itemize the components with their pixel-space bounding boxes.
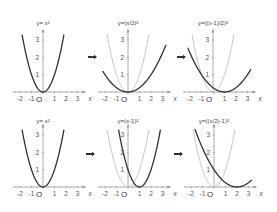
x-tick-label: -2 <box>17 190 23 197</box>
x-tick-label: 3 <box>246 95 250 102</box>
y-tick-label: 2 <box>35 149 39 156</box>
x-tick-label: -1 <box>29 95 35 102</box>
x-axis-label: x <box>173 190 178 197</box>
x-tick-label: 2 <box>149 95 153 102</box>
y-tick-label: 3 <box>35 131 39 138</box>
origin-label: O <box>206 95 212 104</box>
y-tick-label: 2 <box>205 54 209 61</box>
x-tick-label: -2 <box>102 190 108 197</box>
y-tick-label: 1 <box>120 166 124 173</box>
y-tick-label: 3 <box>35 36 39 43</box>
origin-label: O <box>36 190 42 199</box>
x-tick-label: 1 <box>53 95 57 102</box>
x-tick-label: 3 <box>161 95 165 102</box>
y-tick-label: 2 <box>35 54 39 61</box>
right-arrow-icon <box>177 55 186 59</box>
y-tick-label: 1 <box>206 166 210 173</box>
x-tick-label: 2 <box>234 95 238 102</box>
function-curve <box>195 129 252 187</box>
function-label: y= x² <box>36 118 49 124</box>
panel-1-1: -2-1123x123Oy=(x-1)² <box>98 118 177 199</box>
x-tick-label: 3 <box>161 190 165 197</box>
x-axis-label: x <box>173 95 178 102</box>
function-label: y=(x-1)² <box>118 118 139 124</box>
right-arrow-icon <box>88 55 97 59</box>
x-tick-label: -1 <box>199 95 205 102</box>
function-label: y=(x/2)² <box>118 20 139 26</box>
x-tick-label: -1 <box>114 190 120 197</box>
y-tick-label: 1 <box>205 71 209 78</box>
x-tick-label: 3 <box>76 190 80 197</box>
x-tick-label: 1 <box>138 95 142 102</box>
x-tick-label: -1 <box>29 190 35 197</box>
y-tick-label: 1 <box>35 166 39 173</box>
x-tick-label: -2 <box>17 95 23 102</box>
x-tick-label: 2 <box>64 95 68 102</box>
y-tick-label: 1 <box>120 71 124 78</box>
y-tick-label: 3 <box>120 131 124 138</box>
x-tick-label: 2 <box>64 190 68 197</box>
x-tick-label: 1 <box>53 190 57 197</box>
x-tick-label: 2 <box>149 190 153 197</box>
x-tick-label: 1 <box>138 190 142 197</box>
x-axis-label: x <box>88 95 93 102</box>
y-tick-label: 1 <box>35 71 39 78</box>
y-axis-arrow-icon <box>127 124 130 128</box>
x-tick-label: -2 <box>188 190 194 197</box>
x-tick-label: -1 <box>200 190 206 197</box>
function-curve <box>103 45 166 92</box>
x-tick-label: -2 <box>102 95 108 102</box>
y-axis-arrow-icon <box>42 29 45 33</box>
x-tick-label: 1 <box>224 190 228 197</box>
panel-1-0: -2-1123x123Oy= x² <box>13 118 92 199</box>
panel-0-2: -2-1123x123Oy=((x-1)/2)² <box>183 20 262 104</box>
x-tick-label: -2 <box>187 95 193 102</box>
x-tick-label: 2 <box>235 190 239 197</box>
y-axis-arrow-icon <box>127 29 130 33</box>
y-tick-label: 2 <box>206 149 210 156</box>
function-curve <box>188 48 251 92</box>
panel-1-2: -2-1123x123Oy=((x/2)-1)² <box>184 118 263 199</box>
x-axis-label: x <box>259 190 264 197</box>
y-tick-label: 3 <box>206 131 210 138</box>
panel-0-1: -2-1123x123Oy=(x/2)² <box>98 20 177 104</box>
y-axis-arrow-icon <box>213 124 216 128</box>
origin-label: O <box>207 190 213 199</box>
x-tick-label: -1 <box>114 95 120 102</box>
y-tick-label: 2 <box>120 54 124 61</box>
x-tick-label: 1 <box>223 95 227 102</box>
function-label: y= x² <box>36 20 49 26</box>
x-tick-label: 3 <box>247 190 251 197</box>
function-label: y=((x/2)-1)² <box>199 118 229 124</box>
y-axis-arrow-icon <box>212 29 215 33</box>
function-curve <box>119 130 161 187</box>
panel-0-0: -2-1123x123Oy= x² <box>13 20 92 104</box>
x-axis-label: x <box>88 190 93 197</box>
y-tick-label: 3 <box>205 36 209 43</box>
origin-label: O <box>121 190 127 199</box>
function-label: y=((x-1)/2)² <box>198 20 228 26</box>
origin-label: O <box>36 95 42 104</box>
right-arrow-icon <box>174 152 183 156</box>
y-tick-label: 3 <box>120 36 124 43</box>
origin-label: O <box>121 95 127 104</box>
x-axis-label: x <box>258 95 263 102</box>
parabola-transformations-diagram: -2-1123x123Oy= x²-2-1123x123Oy=(x/2)²-2-… <box>0 0 277 212</box>
x-tick-label: 3 <box>76 95 80 102</box>
y-axis-arrow-icon <box>42 124 45 128</box>
right-arrow-icon <box>86 152 95 156</box>
